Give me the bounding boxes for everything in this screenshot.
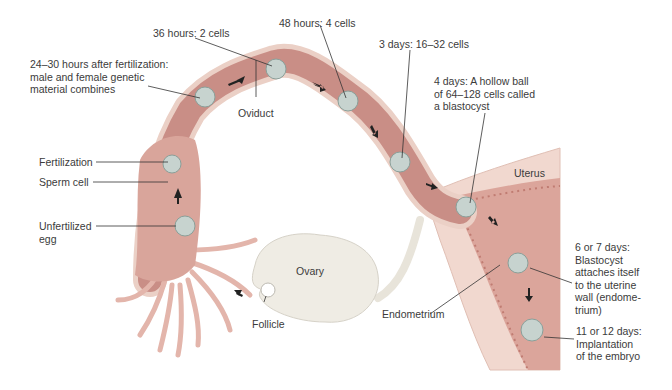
four-cell-embryo (338, 91, 358, 111)
morula (390, 152, 410, 172)
blastocyst (456, 197, 476, 217)
attaching-blastocyst (508, 253, 528, 273)
label-stage-3-days: 3 days: 16–32 cells (379, 38, 469, 51)
two-cell-embryo (266, 59, 286, 79)
follicle-shape (261, 283, 275, 297)
label-stage-36-hours: 36 hours: 2 cells (153, 27, 229, 40)
label-unfertilized-egg: Unfertilized egg (39, 220, 92, 245)
label-uterus: Uterus (514, 167, 545, 180)
implanting-embryo (521, 319, 543, 341)
arrow-icon (234, 290, 243, 297)
unfertilized-egg-cell (175, 216, 195, 236)
label-follicle: Follicle (252, 318, 285, 331)
label-fertilization: Fertilization (39, 156, 93, 169)
label-oviduct: Oviduct (238, 107, 274, 120)
label-sperm-cell: Sperm cell (39, 176, 89, 189)
label-ovary: Ovary (296, 265, 324, 278)
label-stage-11-12-days: 11 or 12 days: Implantation of the embry… (576, 325, 642, 363)
label-stage-24-30-hours: 24–30 hours after fertilization: male an… (30, 58, 168, 96)
label-endometrium: Endometrium (382, 308, 444, 321)
label-stage-6-7-days: 6 or 7 days: Blastocyst attaches itself … (575, 241, 641, 316)
ovarian-ligament (378, 220, 420, 298)
zygote-cell (195, 87, 215, 107)
label-stage-48-hours: 48 hours: 4 cells (279, 17, 355, 30)
ovary-shape (252, 234, 378, 322)
label-stage-4-days: 4 days: A hollow ball of 64–128 cells ca… (434, 75, 535, 113)
fertilized-egg-cell (163, 155, 181, 173)
